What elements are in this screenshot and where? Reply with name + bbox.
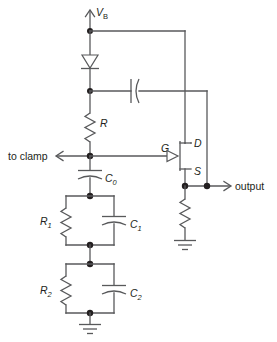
- output-label: output: [235, 180, 264, 192]
- resistor-r-label: R: [100, 117, 108, 129]
- node-output: [204, 183, 210, 189]
- capacitor-c1-label: C1: [130, 218, 142, 233]
- source-label: S: [194, 165, 201, 177]
- resistor-r: [85, 91, 95, 156]
- fet-transistor: [167, 141, 191, 186]
- to-clamp-label: to clamp: [8, 150, 48, 162]
- capacitor-c0: [78, 156, 102, 196]
- drain-label: D: [194, 137, 202, 149]
- ground-source: [174, 241, 196, 250]
- schematic-diagram: VB: [0, 0, 277, 342]
- ground-divider: [79, 313, 101, 334]
- to-clamp-port: [56, 152, 90, 161]
- supply-terminal: [86, 10, 95, 31]
- rc-stage-1: [61, 196, 126, 245]
- diode: [81, 31, 99, 91]
- supply-label: VB: [96, 6, 108, 21]
- resistor-r2-label: R2: [40, 284, 53, 299]
- source-resistor: [180, 186, 190, 240]
- schematic-canvas: VB: [0, 0, 277, 342]
- resistor-r1-label: R1: [40, 215, 52, 230]
- rc-stage-2: [61, 264, 126, 313]
- feedback-capacitor: [90, 79, 207, 186]
- capacitor-c0-label: C0: [105, 172, 118, 187]
- capacitor-c2-label: C2: [130, 287, 143, 302]
